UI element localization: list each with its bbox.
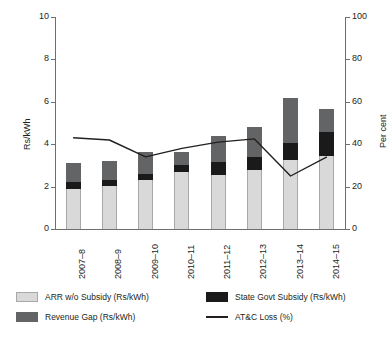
chart-figure: Rs/kWh Per cent 0246810 020406080100 200… xyxy=(0,0,392,339)
y-tick-label-right: 20 xyxy=(352,182,362,191)
legend-label: ARR w/o Subsidy (Rs/kWh) xyxy=(45,292,149,302)
y-tick-label-left: 10 xyxy=(39,12,49,21)
y-tick-label-left: 0 xyxy=(44,224,49,233)
x-tick-label: 2010–11 xyxy=(186,245,196,279)
y-axis-right-title: Per cent xyxy=(378,114,388,148)
y-tick-right xyxy=(346,59,350,60)
y-tick-right xyxy=(346,187,350,188)
y-tick-label-left: 8 xyxy=(44,54,49,63)
legend-label: State Govt Subsidy (Rs/kWh) xyxy=(235,292,346,302)
legend-color-swatch xyxy=(206,292,228,302)
legend-label: Revenue Gap (Rs/kWh) xyxy=(45,312,135,322)
x-tick-label: 2007–8 xyxy=(77,249,87,279)
y-tick-right xyxy=(346,102,350,103)
y-tick-label-right: 60 xyxy=(352,97,362,106)
x-axis-line xyxy=(55,229,346,230)
x-tick-label: 2011–12 xyxy=(222,245,232,279)
y-tick-left xyxy=(51,229,55,230)
legend-color-swatch xyxy=(16,292,38,302)
y-tick-right xyxy=(346,144,350,145)
y-tick-label-left: 2 xyxy=(44,182,49,191)
x-tick-label: 2008–9 xyxy=(113,249,123,279)
y-tick-label-right: 80 xyxy=(352,54,362,63)
y-tick-label-right: 100 xyxy=(352,12,367,21)
y-tick-label-left: 6 xyxy=(44,97,49,106)
legend-item: Revenue Gap (Rs/kWh) xyxy=(16,312,135,322)
chart-legend: ARR w/o Subsidy (Rs/kWh)State Govt Subsi… xyxy=(16,292,388,338)
plot-area xyxy=(55,17,345,229)
y-tick-right xyxy=(346,17,350,18)
atc-loss-line xyxy=(55,17,345,229)
legend-line-swatch xyxy=(206,312,228,322)
x-tick-label: 2009–10 xyxy=(150,244,160,279)
y-tick-label-right: 0 xyxy=(352,224,357,233)
y-axis-right-line xyxy=(345,17,346,230)
x-tick-label: 2014–15 xyxy=(331,244,341,279)
y-axis-left-title: Rs/kWh xyxy=(22,119,32,151)
legend-label: AT&C Loss (%) xyxy=(235,312,293,322)
legend-item: AT&C Loss (%) xyxy=(206,312,293,322)
legend-color-swatch xyxy=(16,312,38,322)
atc-loss-polyline xyxy=(73,138,327,176)
y-tick-label-left: 4 xyxy=(44,139,49,148)
y-tick-right xyxy=(346,229,350,230)
x-tick-label: 2012–13 xyxy=(258,244,268,279)
x-tick-label: 2013–14 xyxy=(295,244,305,279)
y-tick-label-right: 40 xyxy=(352,139,362,148)
legend-item: ARR w/o Subsidy (Rs/kWh) xyxy=(16,292,149,302)
legend-item: State Govt Subsidy (Rs/kWh) xyxy=(206,292,346,302)
